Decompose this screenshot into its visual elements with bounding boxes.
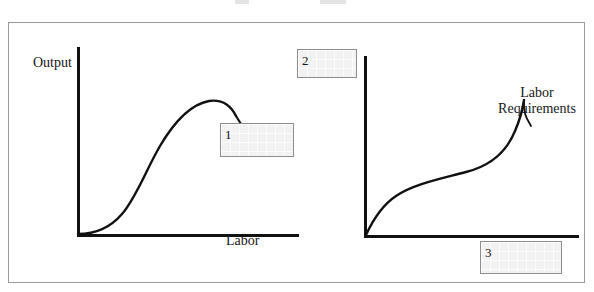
cropped-caption-remnant-left [235, 0, 249, 4]
output-curve [78, 101, 236, 234]
labor-requirements-curve [366, 100, 524, 235]
labor-requirements-label: Labor Requirements [491, 85, 583, 116]
labor-requirements-label-line1: Labor [520, 85, 553, 100]
callout-box-1-label: 1 [225, 127, 232, 142]
figure-canvas: Output Labor Labor Requirements 1 [0, 0, 594, 292]
right-panel-y-axis [364, 56, 367, 238]
callout-box-1[interactable]: 1 [220, 123, 294, 157]
left-panel-x-axis [77, 234, 299, 237]
callout-box-2[interactable]: 2 [297, 49, 357, 78]
left-panel-y-axis [77, 47, 80, 237]
labor-requirements-label-line2: Requirements [498, 101, 576, 116]
cropped-caption-remnant-right [320, 0, 346, 4]
figure-frame: Output Labor Labor Requirements 1 [8, 22, 585, 283]
right-panel-x-axis [364, 235, 579, 238]
callout-box-2-label: 2 [302, 53, 309, 68]
labor-axis-label: Labor [226, 233, 259, 249]
callout-box-3-label: 3 [485, 245, 492, 260]
callout-box-3[interactable]: 3 [480, 241, 562, 274]
output-axis-label: Output [33, 55, 72, 71]
